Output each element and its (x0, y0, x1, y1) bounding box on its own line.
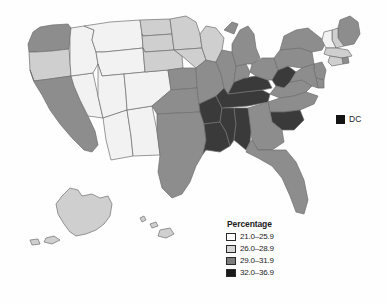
choropleth-map-figure: Percentage 21.0–25.9 26.0–28.9 29.0–31.9… (0, 0, 387, 304)
legend-label-3: 29.0–31.9 (240, 256, 274, 265)
state-CT (328, 56, 343, 66)
state-WA (28, 24, 71, 52)
state-NM (127, 106, 160, 156)
dc-label: DC (349, 115, 361, 124)
state-KS (168, 68, 197, 90)
state-ME (338, 16, 360, 46)
dc-callout: DC (336, 115, 361, 124)
state-NY (280, 28, 326, 52)
state-WY (96, 48, 145, 76)
legend-label-2: 26.0–28.9 (240, 244, 274, 253)
legend-swatch-dark-gray (226, 257, 236, 266)
legend-swatch-black (226, 269, 236, 278)
legend-item-1: 21.0–25.9 (226, 232, 306, 243)
legend-label-1: 21.0–25.9 (240, 232, 274, 241)
legend-title: Percentage (227, 219, 306, 229)
state-ND (140, 19, 172, 36)
state-TX (157, 112, 206, 198)
state-HI (140, 216, 174, 238)
state-SD (142, 34, 174, 52)
legend-label-4: 32.0–36.9 (240, 268, 274, 277)
state-FL (246, 140, 308, 214)
legend-swatch-light-gray (226, 245, 236, 254)
state-AK (30, 188, 112, 245)
state-MA (324, 48, 352, 58)
legend-item-2: 26.0–28.9 (226, 244, 306, 255)
state-MN (170, 16, 202, 50)
dc-marker-square (336, 115, 345, 124)
us-state-map (0, 0, 387, 304)
legend-swatch-white (226, 233, 236, 242)
state-OR (29, 49, 71, 81)
map-legend: Percentage 21.0–25.9 26.0–28.9 29.0–31.9… (226, 219, 306, 280)
legend-item-3: 29.0–31.9 (226, 256, 306, 267)
legend-item-4: 32.0–36.9 (226, 268, 306, 279)
